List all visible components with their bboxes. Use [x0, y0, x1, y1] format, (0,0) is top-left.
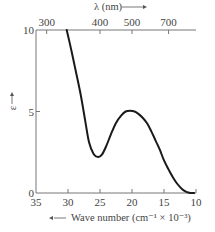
y-axis-arrowhead-icon [10, 92, 14, 96]
axes [36, 30, 196, 193]
y-axis-title: ε [7, 105, 18, 110]
spectrum-curve [67, 30, 194, 193]
x2-tick-label: 300 [38, 16, 55, 28]
y-tick-label: 0 [29, 187, 35, 199]
absorption-spectrum-chart: 3530252015100510300400500700 λ (nm) ε Wa… [0, 0, 215, 232]
top-axis-arrowhead-icon [143, 5, 147, 9]
bottom-axis-title: Wave number (cm⁻¹ × 10⁻³) [71, 212, 191, 224]
x-tick-label: 25 [95, 196, 107, 208]
ticks [36, 30, 196, 193]
bottom-axis-arrowhead-icon [49, 216, 53, 220]
x-tick-label: 10 [191, 196, 203, 208]
top-axis-title: λ (nm) [94, 1, 123, 13]
y-tick-label: 10 [23, 24, 35, 36]
y-tick-label: 5 [29, 106, 35, 118]
x2-tick-label: 500 [124, 16, 141, 28]
x2-tick-label: 700 [160, 16, 177, 28]
x-tick-label: 20 [127, 196, 139, 208]
x-tick-label: 30 [63, 196, 75, 208]
x-tick-label: 15 [159, 196, 171, 208]
x2-tick-label: 400 [92, 16, 109, 28]
